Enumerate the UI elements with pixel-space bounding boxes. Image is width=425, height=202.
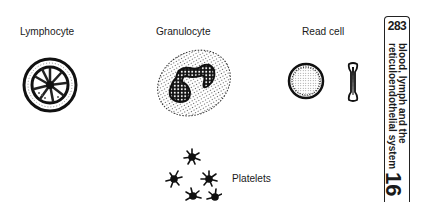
granulocyte-illustration (152, 42, 236, 124)
chapter-title: blood, lymph and the reticuloendothelial… (387, 43, 407, 163)
lymphocyte-illustration (20, 55, 80, 115)
red-cell-label: Read cell (302, 25, 344, 37)
platelets-label: Platelets (232, 172, 271, 184)
platelets-illustration (160, 145, 222, 202)
chapter-number: 16 (380, 172, 406, 196)
red-cell-side-illustration (345, 62, 361, 102)
page-number: 283 (385, 19, 409, 33)
chapter-title-line-2: reticuloendothelial system (387, 43, 397, 163)
chapter-side-tab: 283 blood, lymph and the reticuloendothe… (384, 16, 410, 202)
chapter-title-line-1: blood, lymph and the (397, 43, 407, 163)
red-cell-front-illustration (287, 62, 325, 100)
lymphocyte-label: Lymphocyte (20, 25, 74, 37)
granulocyte-label: Granulocyte (156, 25, 211, 37)
